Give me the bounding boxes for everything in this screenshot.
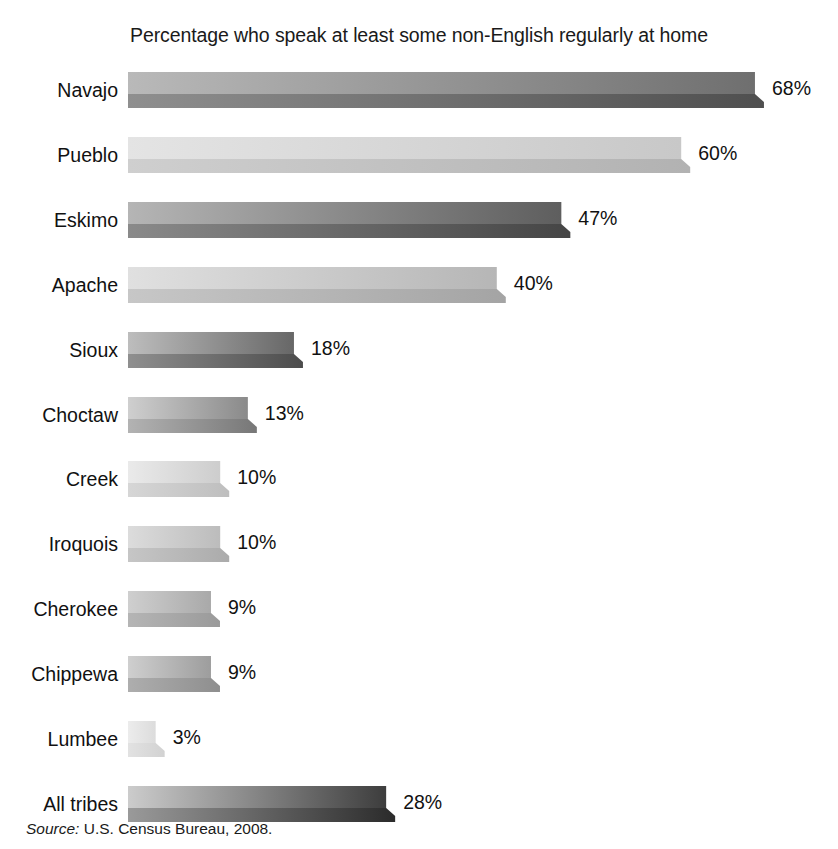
- bar-plot-area: Navajo68%Pueblo60%Eskimo47%Apache40%Siou…: [0, 0, 838, 810]
- bar-value-label: 9%: [228, 591, 256, 623]
- bar-side-face: [128, 483, 229, 497]
- bar-value-label: 3%: [173, 721, 201, 753]
- bar-shape: [128, 267, 508, 313]
- bar-shape: [128, 137, 692, 183]
- source-keyword: Source:: [26, 820, 79, 837]
- bar-side-face: [128, 224, 570, 238]
- source-note: Source: U.S. Census Bureau, 2008.: [26, 820, 272, 838]
- chart-container: Percentage who speak at least some non-E…: [0, 0, 838, 849]
- bar-row: Iroquois10%: [0, 526, 838, 572]
- bar-value-label: 68%: [772, 72, 811, 104]
- bar-category-label: Sioux: [0, 332, 118, 368]
- bar-top-face: [128, 461, 220, 483]
- bar-row: Pueblo60%: [0, 137, 838, 183]
- bar-side-face: [128, 613, 220, 627]
- bar-value-label: 40%: [514, 267, 553, 299]
- bar-category-label: All tribes: [0, 786, 118, 822]
- bar-top-face: [128, 656, 211, 678]
- bar-side-face: [128, 678, 220, 692]
- bar-row: Lumbee3%: [0, 721, 838, 767]
- bar-value-label: 13%: [265, 397, 304, 429]
- bar-side-face: [128, 548, 229, 562]
- bar-top-face: [128, 721, 156, 743]
- bar-shape: [128, 591, 222, 637]
- bar-shape: [128, 526, 231, 572]
- bar-side-face: [128, 743, 165, 757]
- bar-top-face: [128, 591, 211, 613]
- bar-shape: [128, 397, 259, 443]
- bar-side-face: [128, 289, 506, 303]
- bar-shape: [128, 202, 572, 248]
- bar-category-label: Pueblo: [0, 137, 118, 173]
- bar-category-label: Creek: [0, 461, 118, 497]
- bar-shape: [128, 721, 167, 767]
- bar-top-face: [128, 332, 294, 354]
- source-text: U.S. Census Bureau, 2008.: [79, 820, 272, 837]
- bar-shape: [128, 332, 305, 378]
- bar-top-face: [128, 267, 497, 289]
- bar-value-label: 10%: [237, 461, 276, 493]
- bar-row: Chippewa9%: [0, 656, 838, 702]
- bar-value-label: 47%: [578, 202, 617, 234]
- bar-shape: [128, 72, 766, 118]
- bar-row: Eskimo47%: [0, 202, 838, 248]
- bar-top-face: [128, 397, 248, 419]
- bar-top-face: [128, 786, 386, 808]
- bar-category-label: Cherokee: [0, 591, 118, 627]
- bar-category-label: Eskimo: [0, 202, 118, 238]
- bar-category-label: Lumbee: [0, 721, 118, 757]
- bar-value-label: 10%: [237, 526, 276, 558]
- bar-value-label: 9%: [228, 656, 256, 688]
- bar-row: Navajo68%: [0, 72, 838, 118]
- bar-side-face: [128, 354, 303, 368]
- bar-row: Cherokee9%: [0, 591, 838, 637]
- bar-side-face: [128, 419, 257, 433]
- bar-value-label: 60%: [698, 137, 737, 169]
- bar-shape: [128, 461, 231, 507]
- bar-row: Apache40%: [0, 267, 838, 313]
- bar-shape: [128, 656, 222, 702]
- bar-category-label: Apache: [0, 267, 118, 303]
- bar-value-label: 28%: [403, 786, 442, 818]
- bar-top-face: [128, 137, 681, 159]
- bar-side-face: [128, 159, 690, 173]
- bar-category-label: Navajo: [0, 72, 118, 108]
- bar-row: Sioux18%: [0, 332, 838, 378]
- bar-top-face: [128, 202, 561, 224]
- bar-row: Choctaw13%: [0, 397, 838, 443]
- bar-top-face: [128, 72, 755, 94]
- bar-value-label: 18%: [311, 332, 350, 364]
- bar-category-label: Choctaw: [0, 397, 118, 433]
- bar-category-label: Chippewa: [0, 656, 118, 692]
- bar-category-label: Iroquois: [0, 526, 118, 562]
- bar-row: Creek10%: [0, 461, 838, 507]
- bar-side-face: [128, 94, 764, 108]
- bar-top-face: [128, 526, 220, 548]
